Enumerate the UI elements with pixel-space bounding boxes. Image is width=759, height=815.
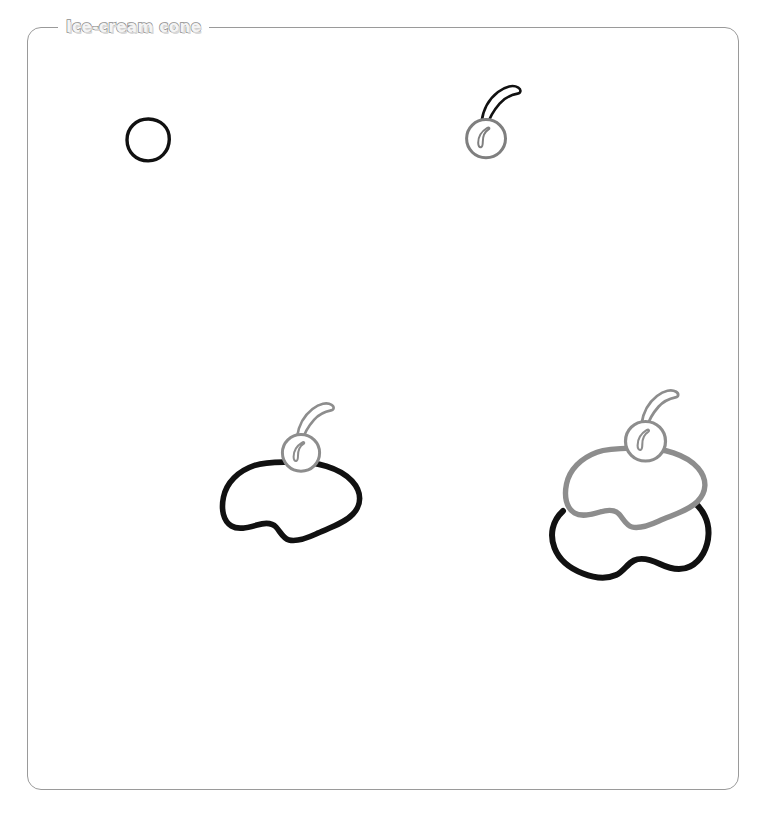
panel-legend: Ice-cream cone [58,16,209,38]
scoop-two-cherry-body [626,422,666,462]
sketch-canvas [0,0,759,815]
step-cherry [467,86,521,158]
step-scoop-two [552,390,708,577]
circle-outline [127,119,169,161]
scoop-one-cherry-body [282,435,319,472]
page-title: Ice-cream cone [66,20,201,35]
cherry-body [467,120,506,158]
step-circle [127,119,169,161]
scoop-one-outline [222,462,359,541]
step-scoop-one [222,403,359,540]
